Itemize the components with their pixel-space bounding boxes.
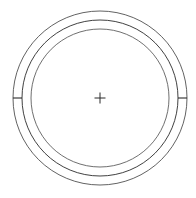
technical-drawing-svg [0,0,196,198]
drawing-canvas [0,0,196,198]
center-crosshair [95,93,106,104]
